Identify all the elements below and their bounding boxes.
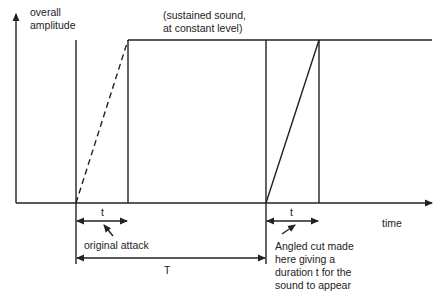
t-label-left: t bbox=[101, 206, 104, 219]
sustain-label-line2: at constant level) bbox=[163, 22, 242, 35]
diagram-graphics bbox=[0, 0, 442, 297]
T-label: T bbox=[164, 264, 170, 277]
cut-note-line3: duration t for the bbox=[275, 266, 351, 279]
original-attack-ramp bbox=[76, 40, 128, 203]
cut-note-line2: here giving a bbox=[275, 253, 335, 266]
cut-note-line4: sound to appear bbox=[275, 279, 351, 292]
cut-note-line1: Angled cut made bbox=[275, 240, 354, 253]
y-axis-label-line2: amplitude bbox=[30, 19, 76, 32]
sustain-label-line1: (sustained sound, bbox=[163, 9, 246, 22]
original-attack-pointer-arrow bbox=[104, 225, 113, 236]
cut-pointer-arrow bbox=[282, 225, 295, 234]
splice-diagram: overall amplitude (sustained sound, at c… bbox=[0, 0, 442, 297]
angled-cut-ramp bbox=[266, 40, 319, 203]
original-attack-label: original attack bbox=[84, 239, 149, 252]
y-axis-label-line1: overall bbox=[30, 6, 61, 19]
t-label-right: t bbox=[290, 206, 293, 219]
x-axis-label: time bbox=[382, 217, 402, 230]
